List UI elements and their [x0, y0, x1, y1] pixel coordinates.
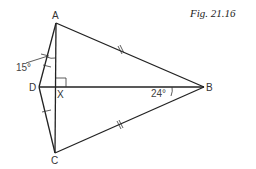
label-b: B — [206, 82, 213, 93]
segment-ad — [39, 23, 56, 87]
figure-caption: Fig. 21.16 — [189, 7, 236, 19]
kite-diagram: Fig. 21.16 A B C D X 15° 24° — [0, 0, 256, 169]
right-angle-marker — [56, 78, 66, 87]
segment-cb — [55, 87, 204, 153]
label-a: A — [52, 10, 59, 21]
label-d: D — [29, 82, 36, 93]
segment-ac — [55, 23, 56, 153]
segment-ab — [56, 23, 204, 87]
angle-arc-a — [47, 57, 55, 58]
angle-label-b: 24° — [151, 88, 166, 99]
angle-label-a: 15° — [16, 62, 31, 73]
segment-dc — [39, 87, 55, 153]
label-x: X — [57, 89, 64, 100]
label-c: C — [51, 155, 58, 166]
tick-dc — [42, 110, 51, 112]
angle-arc-b — [171, 87, 172, 96]
